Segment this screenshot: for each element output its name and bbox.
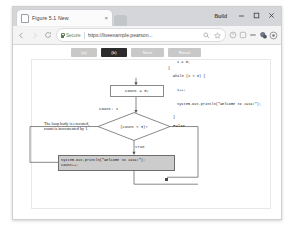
back-button[interactable] [15, 29, 28, 42]
reload-button[interactable] [41, 29, 54, 42]
extension-dual-circle-icon[interactable] [258, 29, 268, 41]
code-line-5: } [173, 115, 261, 120]
page-favicon-icon [21, 14, 29, 23]
animation-controls: (a) (b) Next Reset [71, 48, 201, 57]
browser-window: Figure 5.1 New × Build [12, 6, 282, 220]
browser-tab[interactable]: Figure 5.1 New × [17, 10, 112, 26]
forward-button[interactable] [28, 29, 41, 42]
address-bar[interactable]: Secure https://liveexample.pearson... [56, 28, 226, 42]
url-input[interactable]: https://liveexample.pearson... [88, 32, 200, 38]
minimize-button[interactable] [234, 9, 249, 22]
body-statement-line-1: System.out.println("Welcome to Java!"); [61, 158, 145, 162]
decision-diamond: (count < 3)? [98, 113, 170, 141]
reset-button[interactable]: Reset [168, 48, 201, 57]
close-window-button[interactable] [264, 9, 279, 22]
code-line-2: while (i < 3) { [173, 74, 261, 79]
false-branch-label: False [173, 124, 185, 128]
omnibox-divider [84, 32, 85, 39]
bookmark-star-icon[interactable] [213, 30, 222, 41]
step-a-button[interactable]: (a) [71, 48, 97, 57]
code-line-4: System.out.println("Welcome to Java!"); [173, 102, 261, 107]
count-state-label: count: 1 [99, 107, 118, 111]
lock-icon [60, 33, 64, 38]
next-button[interactable]: Next [131, 48, 164, 57]
close-icon[interactable]: × [103, 15, 109, 21]
extension-bar-icon[interactable] [248, 29, 258, 41]
tab-strip: Figure 5.1 New × Build [13, 7, 281, 26]
secure-label: Secure [66, 33, 81, 38]
browser-toolbar: Secure https://liveexample.pearson... [13, 26, 281, 45]
new-tab-button[interactable] [114, 15, 127, 26]
body-statement-line-2: count++; [61, 163, 78, 167]
code-line-1: i = 0; [173, 60, 261, 65]
init-statement-box: count = 0; [110, 85, 164, 97]
extension-square-icon[interactable] [238, 29, 248, 41]
maximize-button[interactable] [249, 9, 264, 22]
end-terminator-marker [165, 178, 168, 181]
window-controls: Build [215, 9, 280, 22]
annotation-note: The loop body is executed, count is incr… [44, 121, 96, 131]
code-listing: i = 0; while (i < 3) { i++; System.out.p… [173, 51, 261, 129]
tab-title: Figure 5.1 New [32, 15, 100, 21]
search-icon[interactable] [202, 30, 211, 41]
decision-condition-text: (count < 3)? [98, 113, 170, 141]
extension-circle-icon[interactable] [228, 29, 238, 41]
step-b-button[interactable]: (b) [101, 48, 127, 57]
code-brace-marker: { [168, 67, 170, 70]
true-branch-label: true [135, 145, 145, 149]
code-line-3: i++; [173, 88, 261, 93]
profile-avatar-icon[interactable] [268, 29, 279, 41]
loop-body-statement-box: System.out.println("Welcome to Java!"); … [58, 155, 175, 171]
window-title: Build [215, 13, 228, 19]
page-content: (a) (b) Next Reset { i = 0; while (i < 3… [13, 45, 281, 219]
